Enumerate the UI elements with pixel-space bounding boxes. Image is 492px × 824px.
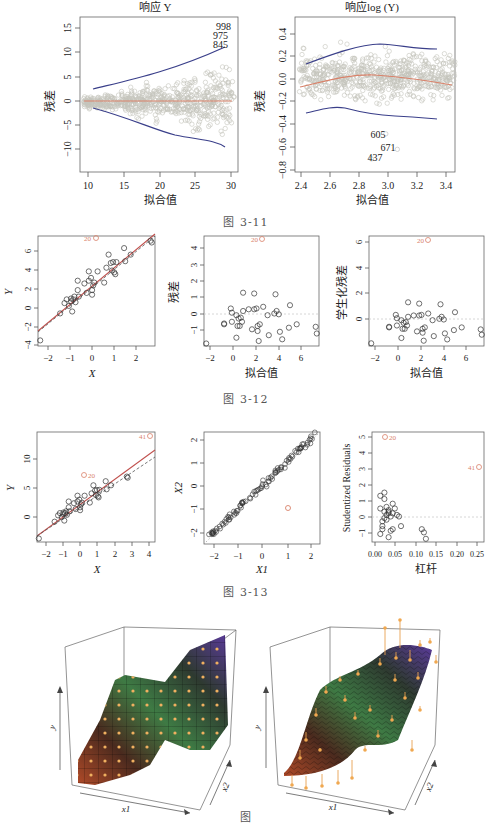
svg-text:−1: −1 [189,325,199,335]
svg-text:−2: −2 [23,322,33,332]
svg-text:1: 1 [95,549,100,559]
svg-text:10: 10 [22,454,32,464]
svg-text:5: 5 [358,435,367,439]
svg-text:3.4: 3.4 [440,180,453,191]
svg-text:2.6: 2.6 [324,180,337,191]
x-axis-label: 杠杆 [415,562,437,575]
annotation-20: 20 [251,236,259,244]
svg-text:6: 6 [23,248,33,253]
svg-text:0.10: 0.10 [409,550,423,559]
svg-text:1: 1 [286,551,291,561]
svg-text:0.15: 0.15 [429,550,443,559]
svg-text:0.25: 0.25 [470,550,484,559]
svg-text:20: 20 [155,180,165,191]
svg-text:−10: −10 [62,141,73,157]
svg-text:−0.4: −0.4 [277,115,288,133]
svg-text:0: 0 [189,483,199,488]
y-axis-label: Y [4,483,16,491]
svg-text:4: 4 [354,265,364,270]
svg-text:6: 6 [299,353,304,363]
svg-text:4: 4 [358,451,367,455]
svg-text:0: 0 [354,316,364,321]
svg-text:3: 3 [189,262,199,267]
svg-text:1: 1 [112,353,117,363]
annotation-20: 20 [88,472,96,480]
figure-caption: 图 3-12 [196,390,296,406]
plot-3d-smooth-surface: y x1 x2 [251,618,440,815]
svg-text:0.00: 0.00 [368,550,382,559]
axis-label-y: y [251,723,262,731]
svg-text:−4: −4 [23,340,33,350]
figure-caption: 图 3-11 [196,213,296,229]
svg-text:0.05: 0.05 [388,550,402,559]
annotation-41: 41 [468,464,476,472]
svg-text:6: 6 [354,239,364,244]
plot-title: 响应 Y [139,0,172,13]
svg-text:4: 4 [442,353,447,363]
plot-studentized-residuals-vs-leverage: 20 41 5 4 3 2 1 0 −1 0.00 0.05 0.10 0.15… [341,432,484,575]
svg-text:3: 3 [358,467,367,471]
y-axis-label: Studentized Residuals [341,444,352,533]
svg-text:2.4: 2.4 [295,180,308,191]
figure-3-14: y x1 x2 y x1 x2 [0,600,492,819]
plot-x2-vs-x1: 2 1 0 −1 −2 −2 −1 0 1 2 X2 X1 [172,430,320,575]
svg-text:4: 4 [147,549,152,559]
figure-3-13: 41 20 10 5 0 −2 −1 0 1 2 3 4 Y X [0,426,492,586]
x-axis-label: X [88,367,97,379]
svg-text:−2: −2 [41,549,51,559]
figure-caption: 图 [196,808,296,824]
svg-text:3: 3 [130,549,135,559]
svg-text:2: 2 [309,551,314,561]
svg-text:0.4: 0.4 [277,28,288,41]
svg-text:−5: −5 [62,120,73,131]
figure-caption: 图 3-13 [196,583,296,599]
svg-text:0: 0 [78,549,83,559]
svg-text:4: 4 [23,267,33,272]
svg-text:−2: −2 [370,353,380,363]
svg-text:−1: −1 [65,353,75,363]
y-axis-label: 学生化残差 [335,265,348,320]
svg-text:0: 0 [358,515,367,519]
annotation-437: 437 [368,152,383,163]
svg-text:5: 5 [62,75,73,80]
svg-text:−1: −1 [233,551,243,561]
x-axis-label: 拟合值 [410,366,443,379]
axis-label-x1: x1 [121,804,131,814]
y-axis-label: 残差 [43,90,56,112]
svg-text:−1: −1 [58,549,68,559]
svg-text:10: 10 [83,180,93,191]
x-axis-label: X1 [255,563,268,575]
svg-text:0: 0 [260,551,265,561]
svg-text:30: 30 [226,180,236,191]
annotation-671: 671 [381,142,396,153]
svg-text:0.2: 0.2 [277,50,288,63]
svg-text:0.20: 0.20 [450,550,464,559]
svg-text:−2: −2 [209,551,219,561]
svg-text:2: 2 [358,483,367,487]
svg-text:0.0: 0.0 [277,73,288,86]
svg-text:0: 0 [90,353,95,363]
plot-studentized-residuals-vs-fitted: 20 6 4 2 0 −2 0 2 4 6 学生化残差 拟合值 [335,236,484,379]
plot-response-logy: 响应log (Y) 605 671 437 0.4 0.2 0.0 −0.2 −… [253,0,457,205]
svg-text:−2: −2 [43,353,53,363]
plot-y-vs-x-outliers: 41 20 10 5 0 −2 −1 0 1 2 3 4 Y X [4,432,155,575]
svg-text:0: 0 [231,353,236,363]
annotation-41: 41 [139,433,147,441]
x-axis-label: 拟合值 [245,366,278,379]
axis-label-x2: x2 [219,781,232,794]
y-axis-label: Y [2,287,14,295]
svg-text:5: 5 [22,485,32,490]
x-axis-label: 拟合值 [144,193,177,205]
plot-title: 响应log (Y) [345,0,399,14]
svg-text:4: 4 [189,245,199,250]
svg-text:2: 2 [134,353,139,363]
svg-text:2: 2 [189,279,199,284]
svg-text:3.2: 3.2 [411,180,424,191]
figure-3-11: 响应 Y 998 975 845 15 10 5 0 −5 −10 10 15 … [0,0,492,205]
plot-residuals-vs-fitted: 20 4 3 2 1 0 −1 −2 0 2 4 6 残差 拟合值 [167,236,319,379]
annotation-605: 605 [371,129,386,140]
svg-text:−0.8: −0.8 [277,161,288,179]
x-axis-label: 拟合值 [356,193,389,205]
svg-text:2: 2 [254,353,259,363]
y-axis-label: X2 [172,481,184,495]
